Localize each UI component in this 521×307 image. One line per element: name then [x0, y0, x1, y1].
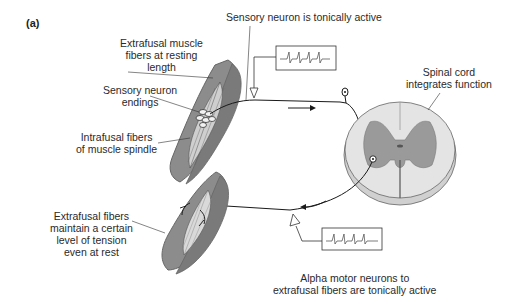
label-line: Extrafusal muscle [120, 37, 203, 49]
label-intrafusal: Intrafusal fibers of muscle spindle [76, 131, 157, 155]
spinal-cord [344, 93, 456, 205]
label-text: Sensory neuron is tonically active [226, 11, 382, 23]
label-extrafusal-resting: Extrafusal muscle fibers at resting leng… [120, 37, 203, 73]
label-line: Intrafusal fibers [76, 131, 157, 143]
label-alpha-motor: Alpha motor neurons to extrafusal fibers… [273, 272, 436, 296]
upper-muscle [170, 60, 241, 184]
label-line: endings [103, 96, 177, 108]
label-line: fibers at resting [120, 49, 203, 61]
label-tension: Extrafusal fibers maintain a certain lev… [50, 210, 133, 258]
label-sensory-active: Sensory neuron is tonically active [226, 11, 382, 23]
label-line: of muscle spindle [76, 143, 157, 155]
label-line: even at rest [50, 246, 133, 258]
label-line: Sensory neuron [103, 84, 177, 96]
label-line: integrates function [406, 78, 492, 90]
label-line: maintain a certain [50, 222, 133, 234]
label-spinal-cord: Spinal cord integrates function [406, 66, 492, 90]
motor-recording [290, 214, 382, 250]
sensory-recording [250, 46, 336, 98]
lower-muscle [162, 172, 229, 274]
label-line: Extrafusal fibers [50, 210, 133, 222]
label-line: Spinal cord [406, 66, 492, 78]
panel-label: (a) [26, 17, 39, 29]
label-line: Alpha motor neurons to [273, 272, 436, 284]
label-line: length [120, 61, 203, 73]
label-sensory-endings: Sensory neuron endings [103, 84, 177, 108]
label-line: extrafusal fibers are tonically active [273, 284, 436, 296]
label-line: level of tension [50, 234, 133, 246]
dorsal-root-ganglion [342, 88, 348, 103]
